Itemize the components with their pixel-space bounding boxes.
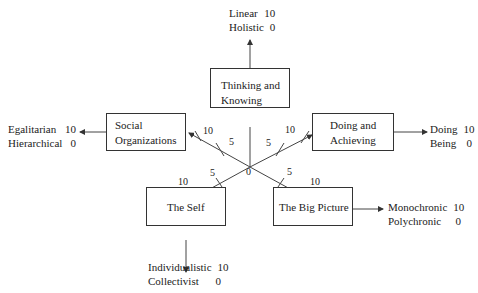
tick-5: 5 xyxy=(210,167,215,178)
scale-label: Individualistic xyxy=(148,260,212,274)
scale-doing: Doing10 Being0 xyxy=(430,122,472,150)
scale-label: Egalitarian xyxy=(8,122,56,136)
scale-value: 10 xyxy=(264,6,275,20)
scale-label: Holistic xyxy=(229,20,264,34)
scale-label: Collectivist xyxy=(148,274,199,288)
box-the-self: The Self xyxy=(146,187,226,226)
box-doing-achieving: Doing and Achieving xyxy=(312,113,394,151)
scale-value: 10 xyxy=(464,122,475,136)
scale-bigpicture: Monochronic10 Polychronic0 xyxy=(388,200,461,228)
tick-10: 10 xyxy=(310,176,320,187)
scale-value: 0 xyxy=(270,20,276,34)
scale-value: 0 xyxy=(456,214,462,228)
scale-value: 10 xyxy=(218,260,229,274)
box-line: Achieving xyxy=(330,133,393,148)
scale-label: Polychronic xyxy=(388,214,441,228)
scale-value: 0 xyxy=(71,136,77,150)
tick-5: 5 xyxy=(229,136,234,147)
box-line: Organizations xyxy=(115,133,185,148)
scale-value: 0 xyxy=(216,274,222,288)
box-line: Knowing xyxy=(221,93,289,108)
tick-10: 10 xyxy=(285,124,295,135)
scale-self: Individualistic10 Collectivist0 xyxy=(148,260,221,288)
scale-label: Hierarchical xyxy=(8,136,62,150)
box-the-big-picture: The Big Picture xyxy=(273,187,353,226)
tick-5: 5 xyxy=(287,166,292,177)
scale-label: Doing xyxy=(430,122,458,136)
tick-10: 10 xyxy=(203,125,213,136)
box-line: Doing and xyxy=(330,118,393,133)
scale-label: Being xyxy=(430,136,456,150)
scale-social: Egalitarian10 Hierarchical0 xyxy=(8,122,76,150)
box-social-organizations: Social Organizations xyxy=(106,113,186,151)
scale-label: Linear xyxy=(229,6,258,20)
box-line: Thinking and xyxy=(221,78,289,93)
scale-label: Monochronic xyxy=(388,200,447,214)
box-line: Social xyxy=(115,118,185,133)
tick-10: 10 xyxy=(178,176,188,187)
scale-value: 0 xyxy=(467,136,473,150)
box-line: The Self xyxy=(167,200,225,215)
scale-value: 10 xyxy=(453,200,464,214)
center-label: 0 xyxy=(246,166,251,177)
scale-value: 10 xyxy=(65,122,76,136)
box-line: The Big Picture xyxy=(279,200,352,215)
box-thinking-knowing: Thinking and Knowing xyxy=(210,68,290,108)
scale-thinking: Linear10 Holistic0 xyxy=(229,6,275,34)
tick-5: 5 xyxy=(266,137,271,148)
